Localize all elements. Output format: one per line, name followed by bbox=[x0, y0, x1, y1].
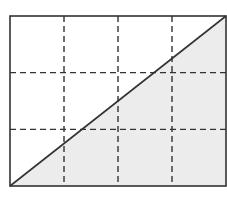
grid-diagram bbox=[0, 0, 227, 208]
